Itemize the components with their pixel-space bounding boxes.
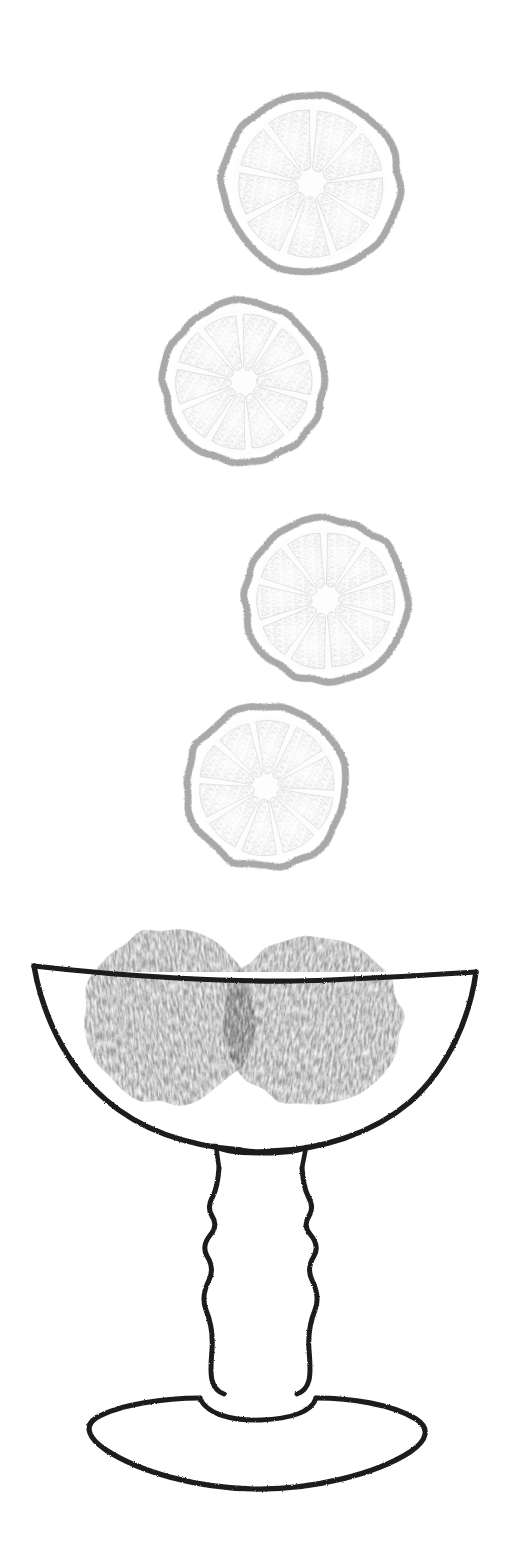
citrus-glass-illustration: Citrus slices above a footed coupe glass…	[0, 0, 520, 1559]
glass-neck-left	[216, 1146, 219, 1168]
illustration-canvas: Citrus slices above a footed coupe glass…	[0, 0, 520, 1559]
glass-label: Footed coupe glass	[2, 16, 11, 18]
artwork-title: Citrus slices above a footed coupe glass	[2, 8, 20, 10]
